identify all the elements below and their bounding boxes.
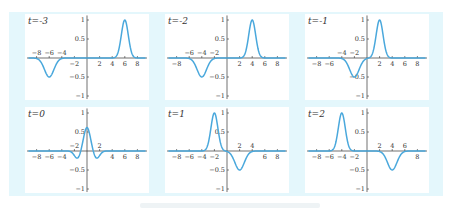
x-tick-label: −8 bbox=[172, 60, 182, 68]
x-tick-label: 8 bbox=[135, 60, 139, 68]
y-tick-label: −0.5 bbox=[69, 73, 85, 81]
plot-area: 10.5−0.5−1−8−6−4−22468 bbox=[305, 14, 429, 100]
plot-area: 10.5−0.5−1−8−6−4−22468 bbox=[305, 107, 429, 193]
y-tick-label: 1 bbox=[81, 16, 85, 24]
x-tick-label: −2 bbox=[70, 60, 80, 68]
y-tick-label: 0.5 bbox=[355, 128, 365, 136]
panel-t-0: t=0 10.5−0.5−1−8−6−4−22468 bbox=[25, 107, 149, 193]
y-tick-label: −1 bbox=[75, 185, 85, 193]
plot-area: 10.5−0.5−1−8−4−6−22468 bbox=[25, 14, 149, 100]
panel-t-1: t=1 10.5−0.5−1−8−6−4−22468 bbox=[165, 107, 289, 193]
x-tick-label: 8 bbox=[415, 153, 419, 161]
y-tick-label: 0.5 bbox=[355, 35, 365, 43]
y-tick-label: 1 bbox=[361, 109, 365, 117]
y-tick-label: 1 bbox=[361, 16, 365, 24]
x-tick-label: −8 bbox=[32, 153, 42, 161]
x-tick-label: 2 bbox=[378, 142, 382, 150]
x-tick-label: −6 bbox=[324, 153, 334, 161]
y-tick-label: −1 bbox=[215, 185, 225, 193]
x-tick-label: 8 bbox=[135, 153, 139, 161]
x-tick-label: 6 bbox=[403, 60, 407, 68]
y-tick-label: 1 bbox=[81, 109, 85, 117]
x-tick-label: −8 bbox=[312, 60, 322, 68]
y-tick-label: −0.5 bbox=[209, 166, 225, 174]
x-tick-label: 6 bbox=[123, 153, 127, 161]
x-tick-label: 4 bbox=[110, 153, 114, 161]
x-tick-label: 4 bbox=[390, 142, 394, 150]
x-tick-label: −8 bbox=[312, 153, 322, 161]
x-tick-label: 6 bbox=[123, 60, 127, 68]
y-tick-label: 0.5 bbox=[75, 35, 85, 43]
x-tick-label: 2 bbox=[98, 60, 102, 68]
x-tick-label: 4 bbox=[250, 60, 254, 68]
x-tick-label: 2 bbox=[98, 142, 102, 150]
panel-t-minus-1: t=-1 10.5−0.5−1−8−6−4−22468 bbox=[305, 14, 429, 100]
y-tick-label: −0.5 bbox=[209, 73, 225, 81]
x-tick-label: −2 bbox=[210, 49, 220, 57]
x-tick-label: 2 bbox=[238, 60, 242, 68]
panel-t-2: t=2 10.5−0.5−1−8−6−4−22468 bbox=[305, 107, 429, 193]
x-tick-label: −6 bbox=[44, 49, 54, 57]
panel-t-minus-2: t=-2 10.5−0.5−1−8−6−4−22468 bbox=[165, 14, 289, 100]
y-tick-label: −1 bbox=[215, 92, 225, 100]
x-tick-label: 2 bbox=[378, 60, 382, 68]
plot-area: 10.5−0.5−1−8−6−4−22468 bbox=[165, 107, 289, 193]
x-tick-label: −4 bbox=[197, 153, 207, 161]
y-tick-label: 1 bbox=[221, 109, 225, 117]
y-tick-label: 1 bbox=[221, 16, 225, 24]
y-tick-label: 0.5 bbox=[215, 128, 225, 136]
x-tick-label: −2 bbox=[70, 142, 80, 150]
x-tick-label: 8 bbox=[415, 60, 419, 68]
y-tick-label: −0.5 bbox=[69, 166, 85, 174]
y-tick-label: −1 bbox=[355, 92, 365, 100]
x-tick-label: −4 bbox=[337, 153, 347, 161]
x-tick-label: 4 bbox=[390, 60, 394, 68]
x-tick-label: −2 bbox=[350, 153, 360, 161]
x-tick-label: −4 bbox=[197, 49, 207, 57]
x-tick-label: −2 bbox=[350, 49, 360, 57]
x-tick-label: 4 bbox=[110, 60, 114, 68]
figure-caption-placeholder bbox=[140, 203, 320, 208]
figure-background: t=-3 10.5−0.5−1−8−4−6−22468 t=-2 10.5−0.… bbox=[9, 12, 443, 196]
x-tick-label: 8 bbox=[275, 153, 279, 161]
x-tick-label: −4 bbox=[57, 153, 67, 161]
x-tick-label: −8 bbox=[32, 49, 42, 57]
plot-area: 10.5−0.5−1−8−6−4−22468 bbox=[25, 107, 149, 193]
x-tick-label: 4 bbox=[250, 142, 254, 150]
x-tick-label: −4 bbox=[57, 49, 67, 57]
x-tick-label: −6 bbox=[184, 153, 194, 161]
x-tick-label: 6 bbox=[263, 153, 267, 161]
y-tick-label: −1 bbox=[355, 185, 365, 193]
x-tick-label: −8 bbox=[172, 153, 182, 161]
x-tick-label: −6 bbox=[184, 49, 194, 57]
x-tick-label: −4 bbox=[337, 49, 347, 57]
y-tick-label: −1 bbox=[75, 92, 85, 100]
x-tick-label: −6 bbox=[324, 60, 334, 68]
panel-t-minus-3: t=-3 10.5−0.5−1−8−4−6−22468 bbox=[25, 14, 149, 100]
plot-area: 10.5−0.5−1−8−6−4−22468 bbox=[165, 14, 289, 100]
y-tick-label: −0.5 bbox=[349, 166, 365, 174]
x-tick-label: −2 bbox=[210, 153, 220, 161]
y-tick-label: 0.5 bbox=[215, 35, 225, 43]
x-tick-label: 6 bbox=[263, 60, 267, 68]
x-tick-label: −6 bbox=[44, 153, 54, 161]
x-tick-label: 8 bbox=[275, 60, 279, 68]
x-tick-label: 6 bbox=[403, 142, 407, 150]
x-tick-label: 2 bbox=[238, 142, 242, 150]
